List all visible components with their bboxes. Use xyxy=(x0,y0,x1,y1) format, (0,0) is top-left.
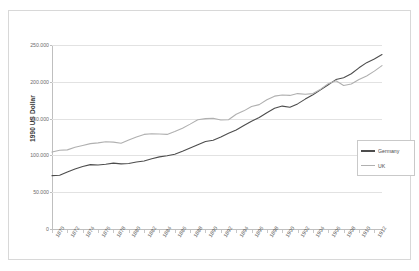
y-axis-tick-label: 0 xyxy=(9,226,49,232)
legend-swatch-germany xyxy=(361,150,375,152)
x-axis-tick xyxy=(221,230,222,233)
x-axis-tick xyxy=(374,230,375,233)
y-axis-tick xyxy=(50,45,52,46)
y-axis-tick-labels: 050.000100.000150.000200.000250.000 xyxy=(9,45,49,230)
legend-item-uk[interactable]: UK xyxy=(361,161,415,171)
x-axis-tick xyxy=(252,230,253,233)
y-axis-tick xyxy=(50,119,52,120)
x-axis-tick xyxy=(328,230,329,233)
x-axis-tick xyxy=(98,230,99,233)
x-axis-tick xyxy=(129,230,130,233)
y-axis-tick xyxy=(50,155,52,156)
x-axis-tick xyxy=(83,230,84,233)
x-axis-tick xyxy=(190,230,191,233)
chart-figure: 1990 US Dollar 050.000100.000150.000200.… xyxy=(0,0,419,271)
legend-label-germany: Germany xyxy=(378,146,399,156)
x-axis-tick xyxy=(144,230,145,233)
y-axis-tick-label: 250.000 xyxy=(9,42,49,48)
legend-label-uk: UK xyxy=(378,161,385,171)
y-axis-tick-label: 150.000 xyxy=(9,116,49,122)
y-axis-tick-label: 100.000 xyxy=(9,152,49,158)
y-axis-tick xyxy=(50,82,52,83)
y-axis-tick-label: 50.000 xyxy=(9,189,49,195)
legend-swatch-uk xyxy=(361,165,375,166)
chart-frame: 1990 US Dollar 050.000100.000150.000200.… xyxy=(8,10,411,260)
x-axis-tick xyxy=(205,230,206,233)
x-axis-tick xyxy=(67,230,68,233)
series-paths xyxy=(52,55,382,176)
x-axis-tick xyxy=(113,230,114,233)
top-caption xyxy=(0,0,419,9)
series-line-germany xyxy=(52,55,382,176)
legend[interactable]: Germany UK xyxy=(357,140,415,176)
legend-item-germany[interactable]: Germany xyxy=(361,146,415,156)
x-axis-tick xyxy=(313,230,314,233)
x-axis-tick xyxy=(344,230,345,233)
x-axis-tick xyxy=(359,230,360,233)
y-axis-tick-label: 200.000 xyxy=(9,79,49,85)
x-axis-tick xyxy=(159,230,160,233)
x-axis-tick xyxy=(282,230,283,233)
x-axis-tick xyxy=(236,230,237,233)
x-axis-tick xyxy=(52,230,53,233)
x-axis-tick xyxy=(175,230,176,233)
y-axis-tick xyxy=(50,192,52,193)
series-layer xyxy=(52,45,382,229)
x-axis-tick xyxy=(267,230,268,233)
x-axis-tick xyxy=(298,230,299,233)
